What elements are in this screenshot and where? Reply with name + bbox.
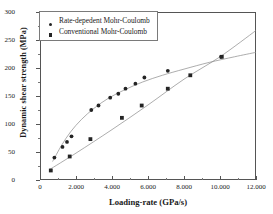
series-fit-line <box>49 30 256 169</box>
x-tick-minor-mark <box>202 178 203 180</box>
y-tick-mark <box>36 124 40 125</box>
data-point-circle <box>65 140 69 144</box>
x-tick-mark <box>148 176 149 180</box>
data-point-square <box>49 169 53 173</box>
y-tick-minor-mark <box>38 54 40 55</box>
y-tick-label: 300 <box>0 8 15 16</box>
y-tick-label: 250 <box>0 36 15 44</box>
series-2 <box>49 30 256 172</box>
data-point-circle <box>134 82 138 86</box>
x-axis-label: Loading-rate (GPa/s) <box>40 197 256 207</box>
data-point-circle <box>116 92 120 96</box>
data-point-circle <box>108 96 112 100</box>
y-axis-label: Dynamic shear strength (MPa) <box>19 8 28 158</box>
data-point-circle <box>143 76 147 80</box>
y-tick-label: 0 <box>0 176 15 184</box>
x-tick-minor-mark <box>58 178 59 180</box>
y-tick-minor-mark <box>38 110 40 111</box>
x-tick-label: 12.000 <box>234 183 273 191</box>
data-point-circle <box>70 134 74 138</box>
data-point-square <box>89 137 93 141</box>
y-tick-minor-mark <box>38 138 40 139</box>
x-tick-mark <box>40 176 41 180</box>
data-point-square <box>166 87 170 91</box>
x-tick-mark <box>76 176 77 180</box>
data-point-circle <box>166 69 170 73</box>
data-point-circle <box>61 145 65 149</box>
data-point-square <box>120 116 124 120</box>
data-point-circle <box>97 104 101 108</box>
series-fit-line <box>53 52 256 161</box>
y-tick-minor-mark <box>38 82 40 83</box>
chart-figure: Dynamic shear strength (MPa) Loading-rat… <box>0 0 273 214</box>
x-tick-mark <box>184 176 185 180</box>
x-tick-minor-mark <box>166 178 167 180</box>
x-tick-minor-mark <box>94 178 95 180</box>
data-point-square <box>220 55 224 59</box>
y-tick-mark <box>36 152 40 153</box>
data-point-circle <box>124 87 128 91</box>
y-tick-label: 200 <box>0 64 15 72</box>
x-tick-mark <box>256 176 257 180</box>
y-tick-label: 150 <box>0 92 15 100</box>
legend-item-label: Rate-depedent Mohr-Coulomb <box>59 17 150 24</box>
data-point-square <box>68 155 72 159</box>
y-tick-mark <box>36 180 40 181</box>
x-tick-minor-mark <box>130 178 131 180</box>
data-point-circle <box>53 156 57 160</box>
legend-item-1: Rate-depedent Mohr-Coulomb <box>45 15 150 26</box>
chart-legend: Rate-depedent Mohr-CoulombConventional M… <box>39 11 158 41</box>
legend-item-2: Conventional Mohr-Coulomb <box>45 26 150 37</box>
series-1 <box>53 52 257 161</box>
x-tick-minor-mark <box>238 178 239 180</box>
y-tick-mark <box>36 68 40 69</box>
y-tick-label: 100 <box>0 120 15 128</box>
legend-square-icon <box>45 24 56 40</box>
x-tick-mark <box>112 176 113 180</box>
y-tick-label: 50 <box>0 148 15 156</box>
y-tick-mark <box>36 96 40 97</box>
legend-item-label: Conventional Mohr-Coulomb <box>59 28 147 35</box>
data-point-square <box>188 73 192 77</box>
marker-glyph <box>49 33 52 36</box>
data-point-square <box>140 104 144 108</box>
x-tick-mark <box>220 176 221 180</box>
y-tick-minor-mark <box>38 166 40 167</box>
data-point-circle <box>89 108 93 112</box>
